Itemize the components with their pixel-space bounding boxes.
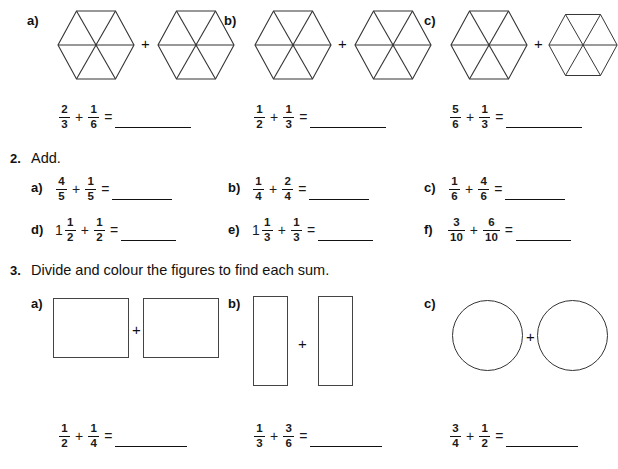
fraction-q2a-left: 4 5: [56, 176, 67, 202]
whole-number-q2d: 1: [55, 222, 63, 238]
q2-part-c-label: c): [424, 180, 436, 195]
q3-part-a-label: a): [31, 296, 43, 311]
fraction-q3b-right: 3 6: [283, 423, 294, 449]
plus-sign-3b: +: [298, 336, 307, 351]
operator-plus: +: [81, 222, 89, 238]
operator-plus: +: [269, 181, 277, 197]
q3-part-b-expression: 1 3 + 3 6 =: [253, 423, 382, 449]
answer-blank-q1c[interactable]: [506, 127, 582, 128]
operator-plus: +: [465, 181, 473, 197]
equals-sign: =: [298, 181, 306, 197]
q1-part-a-label: a): [27, 13, 39, 28]
fraction-q2d-right: 1 2: [94, 217, 105, 243]
q1-part-a-expression: 2 3 + 1 6 =: [58, 104, 191, 130]
q3-part-a-expression: 1 2 + 1 4 =: [58, 423, 187, 449]
fraction-q1b-left: 1 2: [254, 104, 265, 130]
q2-part-f-expression: 3 10 + 6 10 =: [447, 217, 571, 243]
answer-blank-q3c[interactable]: [506, 446, 578, 447]
q2-part-c-expression: 1 6 + 4 6 =: [448, 176, 565, 202]
answer-blank-q2e[interactable]: [318, 240, 373, 241]
answer-blank-q3b[interactable]: [310, 446, 382, 447]
q2-number: 2.: [10, 151, 21, 166]
fraction-q2e-right: 1 3: [291, 217, 302, 243]
fraction-q2c-left: 1 6: [449, 176, 460, 202]
plus-sign-3a: +: [132, 322, 141, 337]
operator-plus: +: [72, 181, 80, 197]
fraction-q3a-left: 1 2: [59, 423, 70, 449]
q2-part-b-label: b): [228, 180, 240, 195]
fraction-q3c-right: 1 2: [479, 423, 490, 449]
q3-part-b-label: b): [228, 296, 240, 311]
fraction-q1c-right: 1 3: [479, 104, 490, 130]
fraction-q2a-right: 1 5: [85, 176, 96, 202]
hexagon-figure-1c-right: [548, 9, 618, 81]
q1-part-b-expression: 1 2 + 1 3 =: [253, 104, 386, 130]
hexagon-figure-1c-left: [450, 9, 528, 81]
operator-plus: +: [470, 222, 478, 238]
operator-plus: +: [270, 109, 278, 125]
q2-prompt: Add.: [31, 150, 61, 166]
fraction-q1b-right: 1 3: [283, 104, 294, 130]
fraction-q1c-left: 5 6: [450, 104, 461, 130]
q1-part-c-expression: 5 6 + 1 3 =: [449, 104, 582, 130]
operator-plus: +: [278, 222, 286, 238]
equals-sign: =: [495, 428, 503, 444]
tall-rectangle-figure-3b-left: [253, 296, 288, 386]
equals-sign: =: [495, 109, 503, 125]
answer-blank-q2a[interactable]: [112, 199, 172, 200]
equals-sign: =: [505, 222, 513, 238]
q2-part-a-label: a): [31, 180, 43, 195]
q3-number: 3.: [10, 263, 21, 278]
q2-part-f-label: f): [424, 222, 433, 237]
answer-blank-q1b[interactable]: [310, 127, 386, 128]
hexagon-figure-1a-left: [57, 9, 135, 81]
equals-sign: =: [101, 181, 109, 197]
operator-plus: +: [75, 428, 83, 444]
hexagon-figure-1a-right: [157, 9, 235, 81]
fraction-q1a-right: 1 6: [88, 104, 99, 130]
fraction-q3a-right: 1 4: [88, 423, 99, 449]
fraction-q2d-left: 1 2: [65, 217, 76, 243]
q3-prompt: Divide and colour the figures to find ea…: [31, 262, 329, 278]
circle-figure-3c-right: [537, 300, 608, 371]
equals-sign: =: [299, 109, 307, 125]
answer-blank-q2c[interactable]: [505, 199, 565, 200]
answer-blank-q2d[interactable]: [121, 240, 176, 241]
operator-plus: +: [466, 428, 474, 444]
equals-sign: =: [494, 181, 502, 197]
operator-plus: +: [270, 428, 278, 444]
q2-part-b-expression: 1 4 + 2 4 =: [252, 176, 369, 202]
fraction-q3c-left: 3 4: [450, 423, 461, 449]
fraction-q2b-left: 1 4: [253, 176, 264, 202]
fraction-q1a-left: 2 3: [59, 104, 70, 130]
equals-sign: =: [110, 222, 118, 238]
operator-plus: +: [75, 109, 83, 125]
fraction-q2f-left: 3 10: [448, 217, 465, 243]
square-figure-3a-right: [143, 298, 219, 358]
equals-sign: =: [299, 428, 307, 444]
equals-sign: =: [104, 428, 112, 444]
q2-part-e-label: e): [228, 222, 240, 237]
operator-plus: +: [466, 109, 474, 125]
hexagon-figure-1b-left: [254, 9, 332, 81]
answer-blank-q2f[interactable]: [516, 240, 571, 241]
whole-number-q2e: 1: [252, 222, 260, 238]
plus-sign-1b: +: [338, 36, 347, 51]
q3-part-c-label: c): [424, 296, 436, 311]
equals-sign: =: [104, 109, 112, 125]
fraction-q2c-right: 4 6: [478, 176, 489, 202]
q2-part-a-expression: 4 5 + 1 5 =: [55, 176, 172, 202]
equals-sign: =: [307, 222, 315, 238]
plus-sign-1a: +: [141, 36, 150, 51]
fraction-q2e-left: 1 3: [262, 217, 273, 243]
tall-rectangle-figure-3b-right: [318, 296, 353, 386]
answer-blank-q1a[interactable]: [115, 127, 191, 128]
q2-part-d-expression: 1 1 2 + 1 2 =: [55, 217, 176, 243]
answer-blank-q3a[interactable]: [115, 446, 187, 447]
plus-sign-1c: +: [534, 36, 543, 51]
fraction-q3b-left: 1 3: [254, 423, 265, 449]
plus-sign-3c: +: [526, 329, 535, 344]
answer-blank-q2b[interactable]: [309, 199, 369, 200]
fraction-q2b-right: 2 4: [282, 176, 293, 202]
